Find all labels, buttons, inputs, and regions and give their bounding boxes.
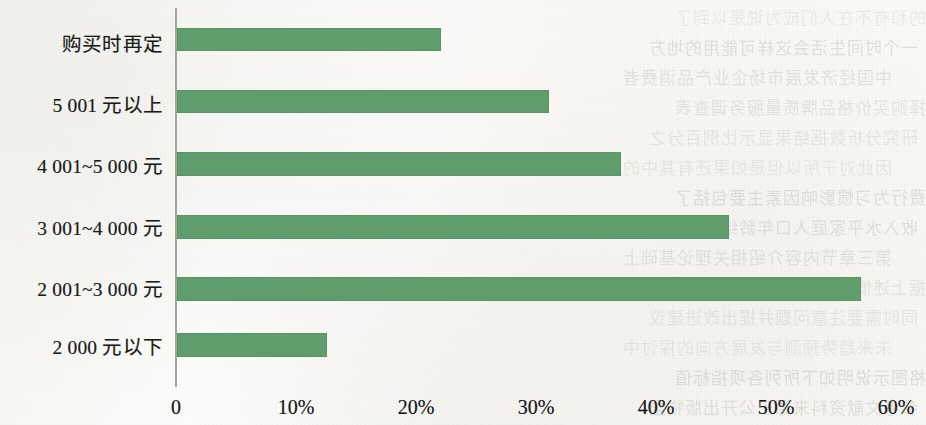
x-tick-label-2: 20% <box>398 396 435 419</box>
category-label-2: 4 001~5 000 元 <box>37 150 163 179</box>
horizontal-bar-chart: 购买时再定 5 001 元以上 4 001~5 000 元 3 001~4 00… <box>0 0 926 425</box>
category-label-4: 2 001~3 000 元 <box>37 273 163 302</box>
bar-category-0 <box>177 28 441 51</box>
bar-category-2 <box>177 152 621 176</box>
x-tick-label-0: 0 <box>171 396 181 419</box>
bar-category-3 <box>177 215 729 239</box>
category-label-1: 5 001 元以上 <box>52 89 163 118</box>
x-tick-label-4: 40% <box>638 396 675 419</box>
category-label-0: 购买时再定 <box>62 28 163 57</box>
bar-category-4 <box>177 277 861 301</box>
bar-category-1 <box>177 90 549 113</box>
category-label-5: 2 000 元以下 <box>52 331 163 360</box>
x-tick-label-1: 10% <box>278 396 315 419</box>
y-axis-line <box>175 8 177 387</box>
bar-category-5 <box>177 333 327 357</box>
x-tick-label-5: 50% <box>758 396 795 419</box>
category-label-3: 3 001~4 000 元 <box>37 212 163 241</box>
x-tick-label-3: 30% <box>518 396 555 419</box>
x-tick-label-6: 60% <box>878 396 915 419</box>
